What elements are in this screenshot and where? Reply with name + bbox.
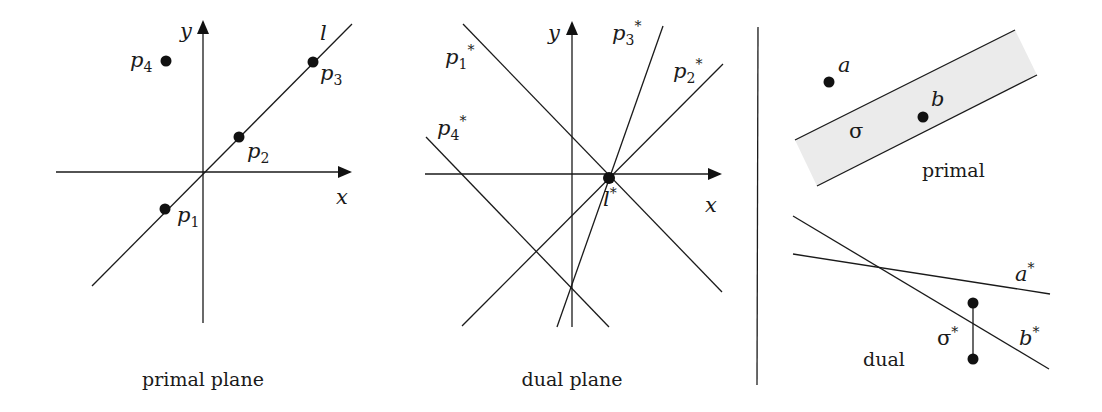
point-b [918,112,929,123]
intersection-point-l-star [603,172,615,184]
primal-point-label: p3 [320,61,342,88]
dual-line-label: p3* [612,18,641,48]
point-a [824,77,835,88]
segment-bottom-endpoint [968,354,979,365]
primal-plane-caption: primal plane [142,368,264,390]
primal-points: p1p2p3p4 [130,48,342,230]
primal-point-p2 [234,132,245,143]
primal-point-p3 [308,57,319,68]
dual-plane-caption: dual plane [522,368,623,390]
primal-x-axis-label: x [336,185,348,209]
primal-y-axis-label: y [179,19,193,43]
dual-line-label: p2* [673,56,702,86]
dual-plane-panel: x y p1*p2*p3*p4* l* dual plane [425,18,723,390]
primal-point-label: p4 [130,48,152,75]
dual-x-axis-label: x [705,193,717,217]
dual-label: dual [863,348,905,370]
primal-label: primal [922,159,985,181]
dual-line-p2-star [462,64,723,326]
primal-point-p4 [161,56,172,67]
dual-line-label: p1* [445,42,474,72]
primal-plane-panel: x y l p1p2p3p4 primal plane [56,19,352,390]
intersection-label: l* [603,185,617,211]
line-a-star [793,254,1050,294]
strip-sigma-label: σ [849,119,863,143]
duality-diagram: x y l p1p2p3p4 primal plane x y p1*p2*p3… [0,0,1102,412]
panel-divider [757,27,758,385]
segment-top-endpoint [968,298,979,309]
dual-lines: p1*p2*p3*p4* [426,18,723,327]
primal-line-l-label: l [320,21,327,45]
line-a-star-label: a* [1015,260,1035,286]
dual-line-label: p4* [437,113,466,143]
strip-sigma-fill [795,30,1037,186]
line-b-star-label: b* [1019,324,1039,350]
dual-line-p4-star [426,137,609,327]
point-a-label: a [838,53,851,77]
dual-y-axis-label: y [547,21,561,45]
line-b-star [793,216,1049,369]
primal-point-label: p2 [247,139,269,166]
point-b-label: b [931,87,944,111]
primal-point-label: p1 [177,203,199,230]
strip-duality-panel: a b σ primal a* b* σ* dual [757,27,1050,385]
primal-point-p1 [160,204,171,215]
segment-sigma-star-label: σ* [937,324,958,350]
